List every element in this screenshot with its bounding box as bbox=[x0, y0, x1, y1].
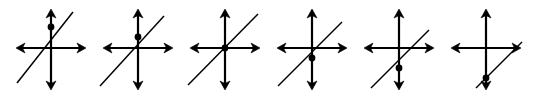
coordinate-panel-4 bbox=[266, 0, 356, 99]
coordinate-panel-1 bbox=[5, 0, 95, 99]
coordinate-panel-5 bbox=[353, 0, 443, 99]
y-intercept-dot-4 bbox=[309, 55, 316, 62]
coordinate-panel-3 bbox=[179, 0, 269, 99]
y-intercept-dot-1 bbox=[48, 24, 55, 31]
coordinate-panel-2 bbox=[92, 0, 182, 99]
slant-line-4 bbox=[278, 22, 342, 86]
figure-strip bbox=[0, 0, 541, 99]
coordinate-panel-6 bbox=[440, 0, 530, 99]
y-intercept-dot-5 bbox=[396, 65, 403, 72]
y-intercept-dot-2 bbox=[135, 34, 142, 41]
y-intercept-dot-3 bbox=[222, 45, 229, 52]
y-intercept-dot-6 bbox=[483, 75, 490, 82]
